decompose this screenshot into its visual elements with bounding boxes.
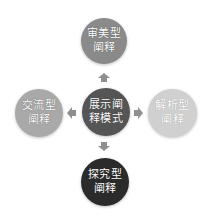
node-label-line2: 释模式 <box>89 112 124 126</box>
node-exploratory-interpretation: 探究型 阐释 <box>81 158 129 206</box>
node-label-line1: 审美型 <box>87 27 122 41</box>
node-label-line2: 阐释 <box>28 113 51 127</box>
node-label-line1: 探究型 <box>88 168 123 182</box>
node-label-line1: 解析型 <box>155 99 190 113</box>
node-display-interpretation-mode: 展示阐 释模式 <box>82 88 130 136</box>
node-analytical-interpretation: 解析型 阐释 <box>148 89 197 137</box>
node-aesthetic-interpretation: 审美型 阐释 <box>81 18 127 64</box>
node-label-line1: 交流型 <box>22 99 57 113</box>
node-label-line2: 阐释 <box>93 41 116 55</box>
node-label-line1: 展示阐 <box>89 98 124 112</box>
node-communicative-interpretation: 交流型 阐释 <box>15 89 63 137</box>
node-label-line2: 阐释 <box>94 182 117 196</box>
node-label-line2: 阐释 <box>161 113 184 127</box>
